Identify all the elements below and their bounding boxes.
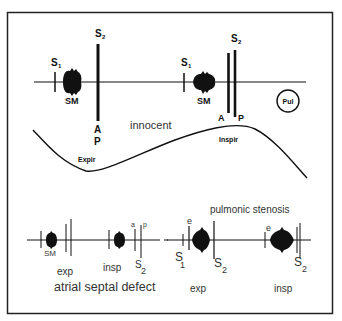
innocent-murmur-panel: S 1 S 2 SM A P S 1 S 2 SM A P Pul innoce… bbox=[33, 28, 307, 178]
systolic-murmur-exp bbox=[192, 227, 210, 253]
ps-title: pulmonic stenosis bbox=[210, 204, 289, 215]
s2-label: S bbox=[95, 28, 102, 39]
p-label: p bbox=[143, 221, 147, 229]
systolic-murmur bbox=[63, 68, 81, 96]
sm-label: SM bbox=[197, 96, 211, 106]
sm-label: SM bbox=[65, 96, 79, 106]
a-label: A bbox=[94, 124, 101, 135]
s2-label: S bbox=[294, 255, 302, 269]
systolic-murmur bbox=[193, 71, 215, 94]
svg-text:2: 2 bbox=[222, 265, 227, 275]
svg-text:2: 2 bbox=[141, 266, 146, 276]
svg-text:2: 2 bbox=[302, 264, 307, 274]
innocent-label: innocent bbox=[130, 119, 172, 131]
svg-text:2: 2 bbox=[102, 34, 106, 40]
atrial-septal-defect-panel: SM exp a p insp S 2 atrial septal defect bbox=[27, 219, 168, 294]
inspir-label: Inspir bbox=[219, 136, 238, 144]
svg-text:1: 1 bbox=[180, 260, 185, 270]
s1-label: S bbox=[181, 57, 188, 68]
s2-label: S bbox=[231, 33, 238, 44]
pul-label: Pul bbox=[283, 98, 294, 105]
exp-label: exp bbox=[57, 266, 74, 277]
p-label: P bbox=[238, 113, 244, 123]
svg-text:1: 1 bbox=[188, 63, 192, 69]
svg-text:2: 2 bbox=[238, 39, 242, 45]
beat-expiration: S 1 S 2 SM A P bbox=[51, 28, 106, 147]
a-label: A bbox=[218, 113, 225, 123]
respiration-curve bbox=[33, 126, 307, 178]
insp-label: insp bbox=[103, 262, 122, 273]
asd-title: atrial septal defect bbox=[54, 280, 156, 294]
svg-text:1: 1 bbox=[58, 63, 62, 69]
systolic-murmur-exp bbox=[46, 231, 57, 249]
systolic-murmur-insp bbox=[270, 227, 294, 253]
p-label: P bbox=[94, 136, 101, 147]
beat-inspiration: S 1 S 2 SM A P bbox=[181, 33, 244, 123]
s1-label: S bbox=[51, 57, 58, 68]
heart-sounds-diagram: S 1 S 2 SM A P S 1 S 2 SM A P Pul innoce… bbox=[0, 0, 342, 321]
e-label: e bbox=[266, 223, 271, 233]
exp-label: exp bbox=[190, 283, 207, 294]
a-label: a bbox=[131, 221, 135, 228]
s2-label: S bbox=[214, 256, 222, 270]
e-label: e bbox=[187, 216, 192, 226]
pulmonic-stenosis-panel: pulmonic stenosis e S 1 S 2 exp e S 2 in… bbox=[167, 204, 311, 294]
expir-label: Expir bbox=[78, 156, 96, 164]
insp-label: insp bbox=[274, 283, 293, 294]
systolic-murmur-insp bbox=[114, 231, 125, 249]
sm-label: SM bbox=[44, 249, 56, 258]
